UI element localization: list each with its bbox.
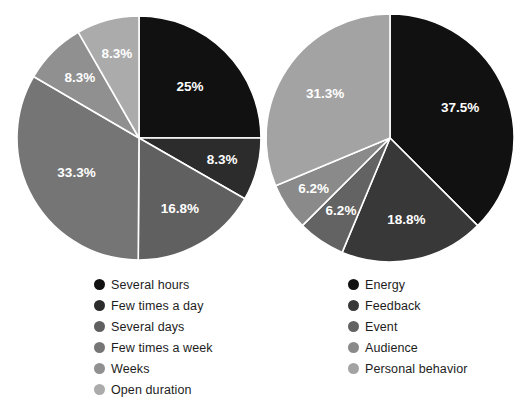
pie-slice-label: 37.5% bbox=[441, 100, 479, 115]
legend-item-label: Few times a week bbox=[111, 341, 213, 355]
legend-item[interactable]: Few times a day bbox=[94, 295, 213, 316]
pie-slice-label: 8.3% bbox=[207, 152, 238, 167]
legend-item[interactable]: Audience bbox=[348, 337, 467, 358]
pie-slice-label: 6.2% bbox=[298, 181, 329, 196]
legend-left: Several hoursFew times a daySeveral days… bbox=[94, 274, 213, 400]
legend-swatch-icon bbox=[94, 363, 105, 374]
pie-slice-label: 33.3% bbox=[57, 165, 95, 180]
pie-svg-left: 25%8.3%16.8%33.3%8.3%8.3% bbox=[0, 0, 261, 272]
legend-swatch-icon bbox=[94, 279, 105, 290]
pie-chart-figure: 25%8.3%16.8%33.3%8.3%8.3% Several hoursF… bbox=[0, 0, 523, 414]
legend-item[interactable]: Energy bbox=[348, 274, 467, 295]
pie-slice-label: 25% bbox=[176, 79, 203, 94]
legend-item-label: Several hours bbox=[111, 278, 189, 292]
legend-swatch-icon bbox=[348, 363, 359, 374]
pie-slice-label: 8.3% bbox=[64, 70, 95, 85]
legend-item[interactable]: Open duration bbox=[94, 379, 213, 400]
legend-item-label: Open duration bbox=[111, 383, 192, 397]
legend-item-label: Energy bbox=[365, 278, 405, 292]
legend-item[interactable]: Feedback bbox=[348, 295, 467, 316]
pie-slice-label: 6.2% bbox=[326, 203, 357, 218]
legend-item-label: Several days bbox=[111, 320, 184, 334]
legend-item-label: Weeks bbox=[111, 362, 149, 376]
pie-slice-label: 31.3% bbox=[306, 86, 344, 101]
legend-item[interactable]: Event bbox=[348, 316, 467, 337]
legend-item[interactable]: Personal behavior bbox=[348, 358, 467, 379]
legend-swatch-icon bbox=[94, 321, 105, 332]
legend-swatch-icon bbox=[348, 321, 359, 332]
legend-item-label: Event bbox=[365, 320, 397, 334]
legend-item[interactable]: Several hours bbox=[94, 274, 213, 295]
legend-swatch-icon bbox=[348, 342, 359, 353]
legend-swatch-icon bbox=[94, 384, 105, 395]
legend-swatch-icon bbox=[94, 342, 105, 353]
chart-panel-right: 37.5%18.8%6.2%6.2%31.3% EnergyFeedbackEv… bbox=[262, 0, 523, 414]
chart-panel-left: 25%8.3%16.8%33.3%8.3%8.3% Several hoursF… bbox=[0, 0, 261, 414]
pie-slice-label: 8.3% bbox=[101, 46, 132, 61]
legend-swatch-icon bbox=[94, 300, 105, 311]
legend-item-label: Audience bbox=[365, 341, 418, 355]
pie-svg-right: 37.5%18.8%6.2%6.2%31.3% bbox=[262, 0, 523, 272]
legend-item-label: Feedback bbox=[365, 299, 421, 313]
legend-item[interactable]: Several days bbox=[94, 316, 213, 337]
legend-swatch-icon bbox=[348, 279, 359, 290]
legend-item-label: Personal behavior bbox=[365, 362, 467, 376]
pie-slice bbox=[139, 16, 261, 138]
pie-slice-label: 16.8% bbox=[161, 201, 199, 216]
legend-item[interactable]: Few times a week bbox=[94, 337, 213, 358]
legend-item[interactable]: Weeks bbox=[94, 358, 213, 379]
pie-chart-left: 25%8.3%16.8%33.3%8.3%8.3% bbox=[0, 0, 261, 272]
pie-slice-label: 18.8% bbox=[387, 212, 425, 227]
legend-swatch-icon bbox=[348, 300, 359, 311]
legend-right: EnergyFeedbackEventAudiencePersonal beha… bbox=[348, 274, 467, 379]
legend-item-label: Few times a day bbox=[111, 299, 204, 313]
pie-chart-right: 37.5%18.8%6.2%6.2%31.3% bbox=[262, 0, 523, 272]
